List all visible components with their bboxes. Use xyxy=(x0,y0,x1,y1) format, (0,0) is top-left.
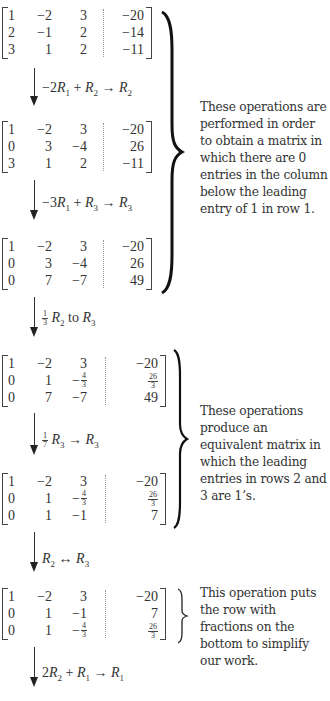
entry: 1 xyxy=(22,155,52,172)
entry: 0 xyxy=(8,507,18,524)
row-symbol: R xyxy=(77,665,86,680)
entry: 26 xyxy=(104,138,144,155)
matrix-row: 0 7 −7 49 xyxy=(2,389,166,406)
minus-sign: − xyxy=(72,622,80,639)
entry: 7 xyxy=(118,605,158,622)
fraction: 13 xyxy=(42,310,48,327)
denominator: 3 xyxy=(43,319,47,327)
row-symbol: R xyxy=(119,195,128,210)
entry: 1 xyxy=(22,507,52,524)
entry: −14 xyxy=(104,24,144,41)
row-operation-2: −3R1 + R3 → R3 xyxy=(42,195,132,213)
minus-sign: − xyxy=(72,490,80,507)
matrix-row: 0 1 −43 263 xyxy=(2,490,166,507)
row-operation-5: R2 ↔ R3 xyxy=(42,551,89,569)
minus-sign: − xyxy=(72,372,80,389)
entry: 0 xyxy=(8,389,18,406)
matrix-row: 0 3 −4 26 xyxy=(2,255,152,272)
right-bracket xyxy=(146,238,152,290)
denominator: 3 xyxy=(82,631,86,639)
plus: + xyxy=(70,80,85,95)
matrix-row: 1 −2 3 −20 xyxy=(2,355,166,372)
right-bracket xyxy=(160,355,166,407)
entry: −2 xyxy=(22,588,52,605)
right-bracket xyxy=(146,121,152,173)
down-arrow-icon xyxy=(30,68,40,106)
matrix-3: 1 −2 3 −20 0 3 −4 26 0 7 −7 49 xyxy=(2,238,152,290)
entry: −1 xyxy=(22,24,52,41)
down-arrow-icon xyxy=(30,647,40,687)
entry: −4 xyxy=(57,255,87,272)
entry: 7 xyxy=(118,507,158,524)
denominator: 3 xyxy=(151,632,155,640)
entry: 3 xyxy=(57,355,87,372)
entry: −20 xyxy=(104,121,144,138)
denominator: 7 xyxy=(43,441,47,449)
row-operation-1: −2R1 + R2 → R2 xyxy=(42,80,132,98)
entry: 7 xyxy=(22,272,52,289)
entry: −1 xyxy=(57,507,87,524)
fraction: 17 xyxy=(42,432,48,449)
entry: −1 xyxy=(57,605,87,622)
coefficient: −3 xyxy=(42,195,57,210)
entry: 0 xyxy=(8,605,18,622)
brace-icon xyxy=(160,10,190,295)
annotation-2: These operations produce an equivalent m… xyxy=(200,403,328,505)
matrix-row: 2 −1 2 −14 xyxy=(2,24,152,41)
entry: −20 xyxy=(104,7,144,24)
right-bracket xyxy=(146,7,152,59)
swap-arrow-icon: ↔ xyxy=(55,551,76,566)
entry: −7 xyxy=(57,272,87,289)
row-symbol: R xyxy=(119,80,128,95)
row-index: 3 xyxy=(128,203,133,213)
entry: 2 xyxy=(57,41,87,58)
entry: 49 xyxy=(118,389,158,406)
matrix-row: 1 −2 3 −20 xyxy=(2,238,152,255)
row-symbol: R xyxy=(52,432,61,447)
right-bracket xyxy=(160,588,166,640)
entry-fraction: 263 xyxy=(118,622,158,640)
entry: −2 xyxy=(22,7,52,24)
matrix-row: 1 −2 3 −20 xyxy=(2,588,166,605)
entry: −2 xyxy=(22,238,52,255)
plus: + xyxy=(62,665,77,680)
matrix-5: 1 −2 3 −20 0 1 −43 263 0 1 −1 7 xyxy=(2,473,166,525)
matrix-row: 0 3 −4 26 xyxy=(2,138,152,155)
entry: 3 xyxy=(22,138,52,155)
entry: −2 xyxy=(22,355,52,372)
entry: 1 xyxy=(22,372,52,389)
entry-fraction: −43 xyxy=(57,490,87,507)
entry: 3 xyxy=(57,473,87,490)
row-symbol: R xyxy=(86,432,95,447)
matrix-row: 0 1 −1 7 xyxy=(2,605,166,622)
entry-fraction: 263 xyxy=(118,490,158,508)
coefficient: 2 xyxy=(42,665,49,680)
row-index: 3 xyxy=(91,318,96,328)
down-arrow-icon xyxy=(30,297,40,337)
entry: −2 xyxy=(22,473,52,490)
entry: −20 xyxy=(118,473,158,490)
entry: −20 xyxy=(104,238,144,255)
entry: 1 xyxy=(8,7,18,24)
entry: 49 xyxy=(104,272,144,289)
row-index: 3 xyxy=(94,440,99,450)
row-symbol: R xyxy=(82,310,91,325)
row-symbol: R xyxy=(49,665,58,680)
right-arrow-icon: → xyxy=(90,665,111,680)
matrix-row: 1 −2 3 −20 xyxy=(2,7,152,24)
row-index: 3 xyxy=(85,559,90,569)
right-arrow-icon: → xyxy=(98,80,119,95)
entry: 2 xyxy=(8,24,18,41)
entry: 0 xyxy=(8,372,18,389)
entry: −4 xyxy=(57,138,87,155)
matrix-row: 0 1 −1 7 xyxy=(2,507,166,524)
entry-fraction: 263 xyxy=(118,372,158,390)
matrix-1: 1 −2 3 −20 2 −1 2 −14 3 1 2 −11 xyxy=(2,7,152,59)
down-arrow-icon xyxy=(30,532,40,572)
entry: 1 xyxy=(22,490,52,507)
matrix-4: 1 −2 3 −20 0 1 −43 263 0 7 −7 49 xyxy=(2,355,166,407)
annotation-1: These operations are performed in order … xyxy=(200,99,328,218)
right-arrow-icon: → xyxy=(65,432,86,447)
entry: 3 xyxy=(57,238,87,255)
brace-icon xyxy=(172,348,192,530)
